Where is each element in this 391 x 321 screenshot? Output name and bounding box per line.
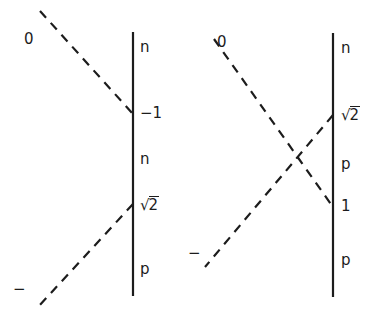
left-outgoing-minus-line [38, 204, 133, 307]
left-diagram [38, 11, 133, 307]
figure-root: 0 n −1 n √2 p − 0 n √2 p 1 p − [0, 0, 391, 321]
left-label-zero: 0 [24, 32, 34, 47]
radical-sign-icon: √ [341, 108, 351, 123]
left-incoming-zero-line [40, 11, 133, 114]
diagram-canvas [0, 0, 391, 321]
right-label-p-bottom: p [341, 253, 351, 268]
left-label-sqrt-two: √2 [140, 196, 159, 213]
right-label-sqrt-two: √2 [341, 106, 360, 123]
left-label-n-mid: n [140, 152, 150, 167]
right-label-n-top: n [341, 41, 351, 56]
right-diagram [205, 33, 333, 297]
left-radical-argument: 2 [149, 196, 160, 213]
left-label-minus-one: −1 [140, 106, 162, 121]
right-label-one: 1 [341, 199, 351, 214]
right-incoming-zero-line [214, 39, 333, 207]
right-label-zero: 0 [217, 35, 227, 50]
right-label-minus: − [188, 246, 201, 261]
left-label-n-top: n [140, 40, 150, 55]
right-radical-argument: 2 [350, 106, 361, 123]
right-label-p-mid: p [341, 157, 351, 172]
left-label-minus: − [13, 282, 26, 297]
radical-sign-icon: √ [140, 198, 150, 213]
left-label-p-bottom: p [140, 262, 150, 277]
right-outgoing-minus-line [205, 115, 333, 267]
